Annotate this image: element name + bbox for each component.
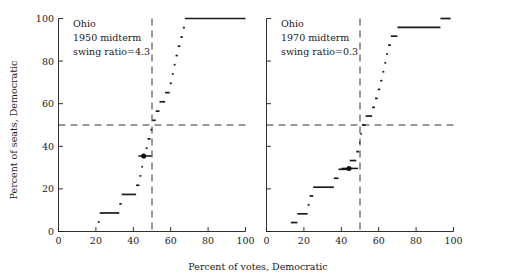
figure-root: Percent of seats, Democratic Percent of …: [0, 0, 516, 280]
y-axis-title-group: Percent of seats, Democratic: [8, 61, 19, 200]
x-tick-label: 60: [165, 235, 177, 246]
x-tick-label: 80: [202, 235, 214, 246]
y-tick-label: 60: [42, 98, 54, 109]
seats-votes-figure: Percent of seats, Democratic Percent of …: [0, 0, 516, 280]
annotation-swing-ratio: swing ratio=4.3: [73, 46, 150, 57]
x-tick-label: 100: [444, 235, 462, 246]
x-axis-title: Percent of votes, Democratic: [188, 261, 327, 272]
annotation-year: 1970 midterm: [281, 32, 349, 43]
y-tick-label: 80: [42, 56, 54, 67]
x-tick-label: 20: [90, 235, 102, 246]
x-tick-label: 0: [55, 235, 61, 246]
panel-left-annotation: Ohio 1950 midterm swing ratio=4.3: [73, 18, 150, 57]
x-tick-label: 20: [298, 235, 310, 246]
x-tick-label: 100: [236, 235, 254, 246]
x-tick-label: 40: [127, 235, 139, 246]
y-tick-label: 40: [42, 141, 54, 152]
panel-left: 100 80 60 40 20 0 0 20 40 60: [36, 13, 255, 246]
panel-right-x-ticklabels: 0 20 40 60 80 100: [263, 235, 462, 246]
x-tick-label: 0: [263, 235, 269, 246]
y-axis-title: Percent of seats, Democratic: [8, 61, 19, 200]
y-tick-label: 20: [42, 183, 54, 194]
annotation-state: Ohio: [281, 18, 304, 29]
x-tick-label: 60: [373, 235, 385, 246]
annotation-state: Ohio: [73, 18, 96, 29]
y-tick-label: 100: [36, 13, 54, 24]
panel-right-annotation: Ohio 1970 midterm swing ratio=0.3: [281, 18, 358, 57]
panel-left-x-ticklabels: 0 20 40 60 80 100: [55, 235, 254, 246]
panel-left-y-ticklabels: 100 80 60 40 20 0: [36, 13, 54, 237]
annotation-year: 1950 midterm: [73, 32, 141, 43]
x-tick-label: 40: [335, 235, 347, 246]
panel-right: 0 20 40 60 80 100 Ohio 1970 midterm swin…: [263, 18, 462, 246]
annotation-swing-ratio: swing ratio=0.3: [281, 46, 358, 57]
y-tick-label: 0: [48, 226, 54, 237]
panel-left-observed-marker: [138, 154, 151, 159]
x-tick-label: 80: [410, 235, 422, 246]
